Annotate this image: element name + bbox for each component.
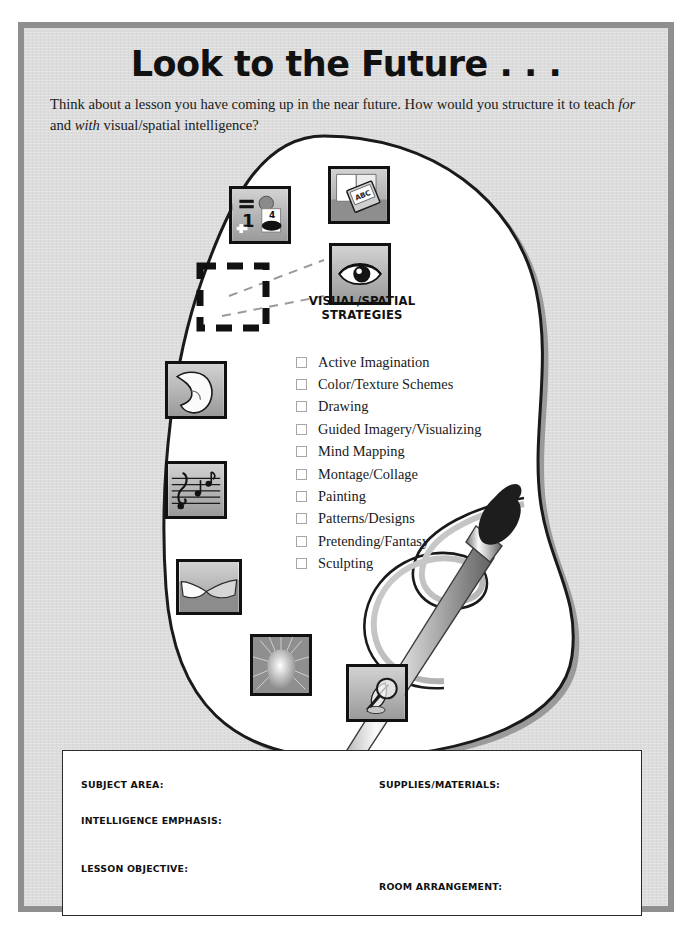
checkbox-icon[interactable] [296, 513, 307, 524]
list-item[interactable]: Color/Texture Schemes [296, 373, 512, 395]
list-item-label: Drawing [318, 398, 368, 415]
list-item-label: Color/Texture Schemes [318, 376, 453, 393]
list-item-label: Guided Imagery/Visualizing [318, 421, 481, 438]
list-item[interactable]: Drawing [296, 396, 512, 418]
list-item[interactable]: Active Imagination [296, 351, 512, 373]
list-item-label: Painting [318, 488, 366, 505]
strategies-list: Active Imagination Color/Texture Schemes… [296, 351, 512, 575]
strategies-heading-line2: STRATEGIES [288, 308, 436, 322]
magnifier-leaf-naturalist-icon [346, 664, 408, 722]
intro-italic-with: with [75, 117, 100, 133]
checkbox-icon[interactable] [296, 424, 307, 435]
intro-text-b: and [50, 117, 75, 133]
strategies-panel: VISUAL/SPATIAL STRATEGIES Active Imagina… [282, 294, 512, 575]
list-item[interactable]: Mind Mapping [296, 441, 512, 463]
checkbox-icon[interactable] [296, 536, 307, 547]
field-label-subject-area: SUBJECT AREA: [81, 779, 164, 790]
checkbox-icon[interactable] [296, 357, 307, 368]
list-item-label: Montage/Collage [318, 466, 418, 483]
checkbox-icon[interactable] [296, 558, 307, 569]
list-item-label: Mind Mapping [318, 443, 405, 460]
checkbox-icon[interactable] [296, 446, 307, 457]
field-label-intelligence-emphasis: INTELLIGENCE EMPHASIS: [81, 815, 222, 826]
book-abc-icon: ABC [328, 166, 390, 224]
intro-text-c: visual/spatial intelligence? [100, 117, 259, 133]
checkbox-icon[interactable] [296, 379, 307, 390]
list-item[interactable]: Guided Imagery/Visualizing [296, 418, 512, 440]
music-notes-icon [165, 461, 227, 519]
worksheet-page: Look to the Future . . . Think about a l… [18, 22, 674, 912]
svg-text:4: 4 [269, 210, 275, 220]
list-item[interactable]: Patterns/Designs [296, 508, 512, 530]
math-logical-icon: 1 4 [229, 186, 291, 244]
page-title: Look to the Future . . . [24, 44, 668, 84]
checkbox-icon[interactable] [296, 491, 307, 502]
intro-text-a: Think about a lesson you have coming up … [50, 96, 618, 112]
strategies-heading: VISUAL/SPATIAL STRATEGIES [288, 294, 436, 323]
field-label-lesson-objective: LESSON OBJECTIVE: [81, 863, 188, 874]
list-item[interactable]: Sculpting [296, 552, 512, 574]
intro-paragraph: Think about a lesson you have coming up … [50, 94, 636, 135]
list-item-label: Active Imagination [318, 354, 430, 371]
list-item[interactable]: Montage/Collage [296, 463, 512, 485]
list-item[interactable]: Pretending/Fantasy [296, 530, 512, 552]
checkbox-icon[interactable] [296, 469, 307, 480]
field-label-room-arrangement: ROOM ARRANGEMENT: [379, 881, 502, 892]
flexed-arm-kinesthetic-icon [165, 361, 227, 419]
list-item-label: Patterns/Designs [318, 510, 415, 527]
glowing-head-intrapersonal-icon [250, 634, 312, 696]
checkbox-icon[interactable] [296, 401, 307, 412]
lesson-plan-form[interactable]: SUBJECT AREA: INTELLIGENCE EMPHASIS: LES… [62, 750, 642, 916]
intro-italic-for: for [618, 96, 635, 112]
strategies-heading-line1: VISUAL/SPATIAL [288, 294, 436, 308]
list-item-label: Pretending/Fantasy [318, 533, 429, 550]
handshake-interpersonal-icon [176, 559, 242, 615]
list-item-label: Sculpting [318, 555, 373, 572]
list-item[interactable]: Painting [296, 485, 512, 507]
field-label-supplies-materials: SUPPLIES/MATERIALS: [379, 779, 500, 790]
